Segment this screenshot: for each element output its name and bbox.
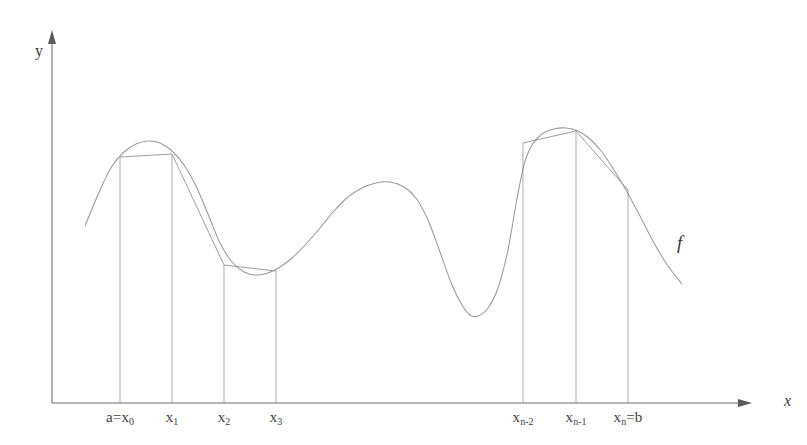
tick-label-base: x xyxy=(613,409,621,425)
tick-label-subscript: n-1 xyxy=(573,416,586,427)
tick-label-xn: xn=b xyxy=(613,409,642,426)
figure-canvas xyxy=(0,0,807,445)
ordinate-lines-group xyxy=(120,131,628,403)
tick-label-base: x xyxy=(166,409,174,425)
tick-label-base: x xyxy=(512,409,520,425)
tick-label-x0: a=x0 xyxy=(106,409,134,426)
tick-label-subscript: 1 xyxy=(173,416,178,427)
trapezoid-chord xyxy=(120,154,172,157)
tick-label-base: a=x xyxy=(106,409,129,425)
tick-label-suffix: =b xyxy=(626,409,642,425)
tick-label-x3: x3 xyxy=(270,409,283,426)
tick-label-base: x xyxy=(218,409,226,425)
function-label: f xyxy=(677,232,682,254)
tick-label-subscript: 2 xyxy=(225,416,230,427)
x-axis-label: x xyxy=(784,392,791,410)
tick-label-subscript: n xyxy=(621,416,626,427)
trapezoid-chord xyxy=(172,154,224,265)
tick-label-subscript: 3 xyxy=(277,416,282,427)
tick-label-base: x xyxy=(565,409,573,425)
trapezoidal-rule-figure: y x f a=x0x1x2x3xn-2xn-1xn=b xyxy=(0,0,807,445)
tick-label-xn-1: xn-1 xyxy=(565,409,586,426)
tick-label-subscript: n-2 xyxy=(520,416,533,427)
tick-label-x2: x2 xyxy=(218,409,231,426)
trapezoid-chord xyxy=(523,131,576,143)
axes-group xyxy=(48,30,752,407)
y-axis-label: y xyxy=(35,42,43,60)
y-axis-arrow-icon xyxy=(48,30,56,44)
trapezoid-chord xyxy=(224,265,276,271)
function-curve xyxy=(85,128,682,317)
tick-label-xn-2: xn-2 xyxy=(512,409,533,426)
x-axis-arrow-icon xyxy=(738,399,752,407)
tick-label-base: x xyxy=(270,409,278,425)
tick-label-x1: x1 xyxy=(166,409,179,426)
trapezoid-chords-group xyxy=(120,131,628,271)
tick-label-subscript: 0 xyxy=(129,416,134,427)
trapezoid-chord xyxy=(576,131,628,190)
